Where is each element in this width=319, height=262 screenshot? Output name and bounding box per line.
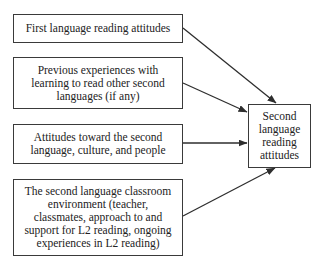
arrow-box-2-to-target <box>183 83 247 112</box>
influences-diagram: First language reading attitudes Previou… <box>0 0 319 262</box>
target-label: Second language reading attitudes <box>252 110 307 162</box>
classroom-environment-box: The second language classroom environmen… <box>13 179 183 256</box>
box-label: Attitudes toward the second language, cu… <box>20 131 176 157</box>
arrow-box-4-to-target <box>183 168 275 216</box>
first-language-attitudes-box: First language reading attitudes <box>13 14 183 43</box>
attitudes-toward-l2-box: Attitudes toward the second language, cu… <box>13 124 183 164</box>
arrow-box-1-to-target <box>183 28 276 103</box>
previous-experiences-box: Previous experiences with learning to re… <box>13 57 183 109</box>
box-label: First language reading attitudes <box>26 22 171 35</box>
box-label: Previous experiences with learning to re… <box>20 64 176 103</box>
box-label: The second language classroom environmen… <box>22 185 174 250</box>
l2-reading-attitudes-box: Second language reading attitudes <box>248 104 311 168</box>
